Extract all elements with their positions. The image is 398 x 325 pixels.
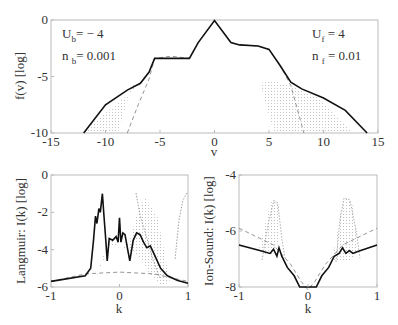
y-tick-label: 0 <box>42 12 49 27</box>
x-tick-label: 1 <box>185 288 192 303</box>
x-tick-label: 5 <box>266 134 273 149</box>
y-axis-label: f(v) [log] <box>12 52 27 100</box>
y-tick-label: -2 <box>37 204 48 219</box>
y-tick-label: -5 <box>37 69 48 84</box>
top-panel: -15-10-5051015 0-5-10 v f(v) [log] Ub= −… <box>12 12 385 159</box>
x-axis-label: k <box>305 301 312 316</box>
figure: -15-10-5051015 0-5-10 v f(v) [log] Ub= −… <box>0 0 398 325</box>
y-tick-label: -8 <box>225 279 236 294</box>
y-tick-label: -4 <box>37 242 48 257</box>
x-tick-label: -10 <box>97 134 114 149</box>
y-axis-label: Langmuir: I(k) [log] <box>13 178 28 284</box>
ion-sound-panel: -101 -4-6-8 k Ion-Sound: I(k) [log] <box>201 167 380 316</box>
x-axis-label: v <box>211 144 218 159</box>
y-tick-label: -4 <box>225 167 236 182</box>
langmuir-panel: -101 0-2-4-6 k Langmuir: I(k) [log] <box>13 167 191 316</box>
x-axis-label: k <box>116 301 123 316</box>
x-tick-label: 1 <box>374 288 381 303</box>
y-tick-label: -10 <box>31 125 48 140</box>
y-ticks: 0-5-10 <box>31 12 54 140</box>
y-tick-label: -6 <box>225 223 236 238</box>
x-tick-label: -5 <box>155 134 166 149</box>
x-tick-label: 10 <box>317 134 330 149</box>
x-tick-label: 15 <box>372 134 385 149</box>
y-tick-label: 0 <box>42 167 49 182</box>
y-axis-label: Ion-Sound: I(k) [log] <box>201 176 216 286</box>
y-tick-label: -6 <box>37 279 48 294</box>
